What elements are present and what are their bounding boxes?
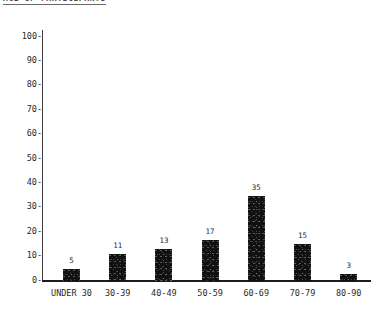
bar-value-label: 5 [63, 257, 80, 265]
x-axis-category-label: 80-90 [309, 288, 386, 298]
bar-series: 511131735153 [0, 0, 386, 312]
bar [202, 240, 219, 281]
bar [294, 244, 311, 281]
bar [109, 254, 126, 281]
bar [155, 249, 172, 281]
bar-value-label: 11 [109, 242, 126, 250]
bar-value-label: 13 [155, 237, 172, 245]
bar [63, 269, 80, 281]
bar-value-label: 15 [294, 232, 311, 240]
bar-value-label: 17 [202, 228, 219, 236]
bar-value-label: 3 [340, 262, 357, 270]
bar [340, 274, 357, 281]
x-axis-labels: UNDER 3030-3940-4950-5960-6970-7980-90 [0, 288, 386, 304]
bar [248, 196, 265, 281]
chart-plot-area: 100-90-80-70-60-50-40-30-20-10-0- 511131… [0, 0, 386, 312]
bar-value-label: 35 [248, 184, 265, 192]
